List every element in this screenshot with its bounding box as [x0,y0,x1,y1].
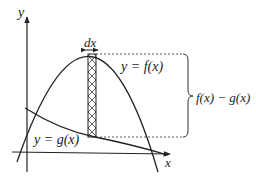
y-axis-label: y [18,6,24,20]
brace [183,54,193,137]
diagram-canvas [0,0,256,178]
f-curve-label: y = f(x) [121,60,163,74]
x-axis-label: x [165,156,171,169]
g-curve-label: y = g(x) [34,133,79,147]
strip-rectangle [88,54,96,137]
brace-label: f(x) − g(x) [196,91,250,104]
x-axis [12,152,170,154]
dx-label: dx [84,36,96,49]
